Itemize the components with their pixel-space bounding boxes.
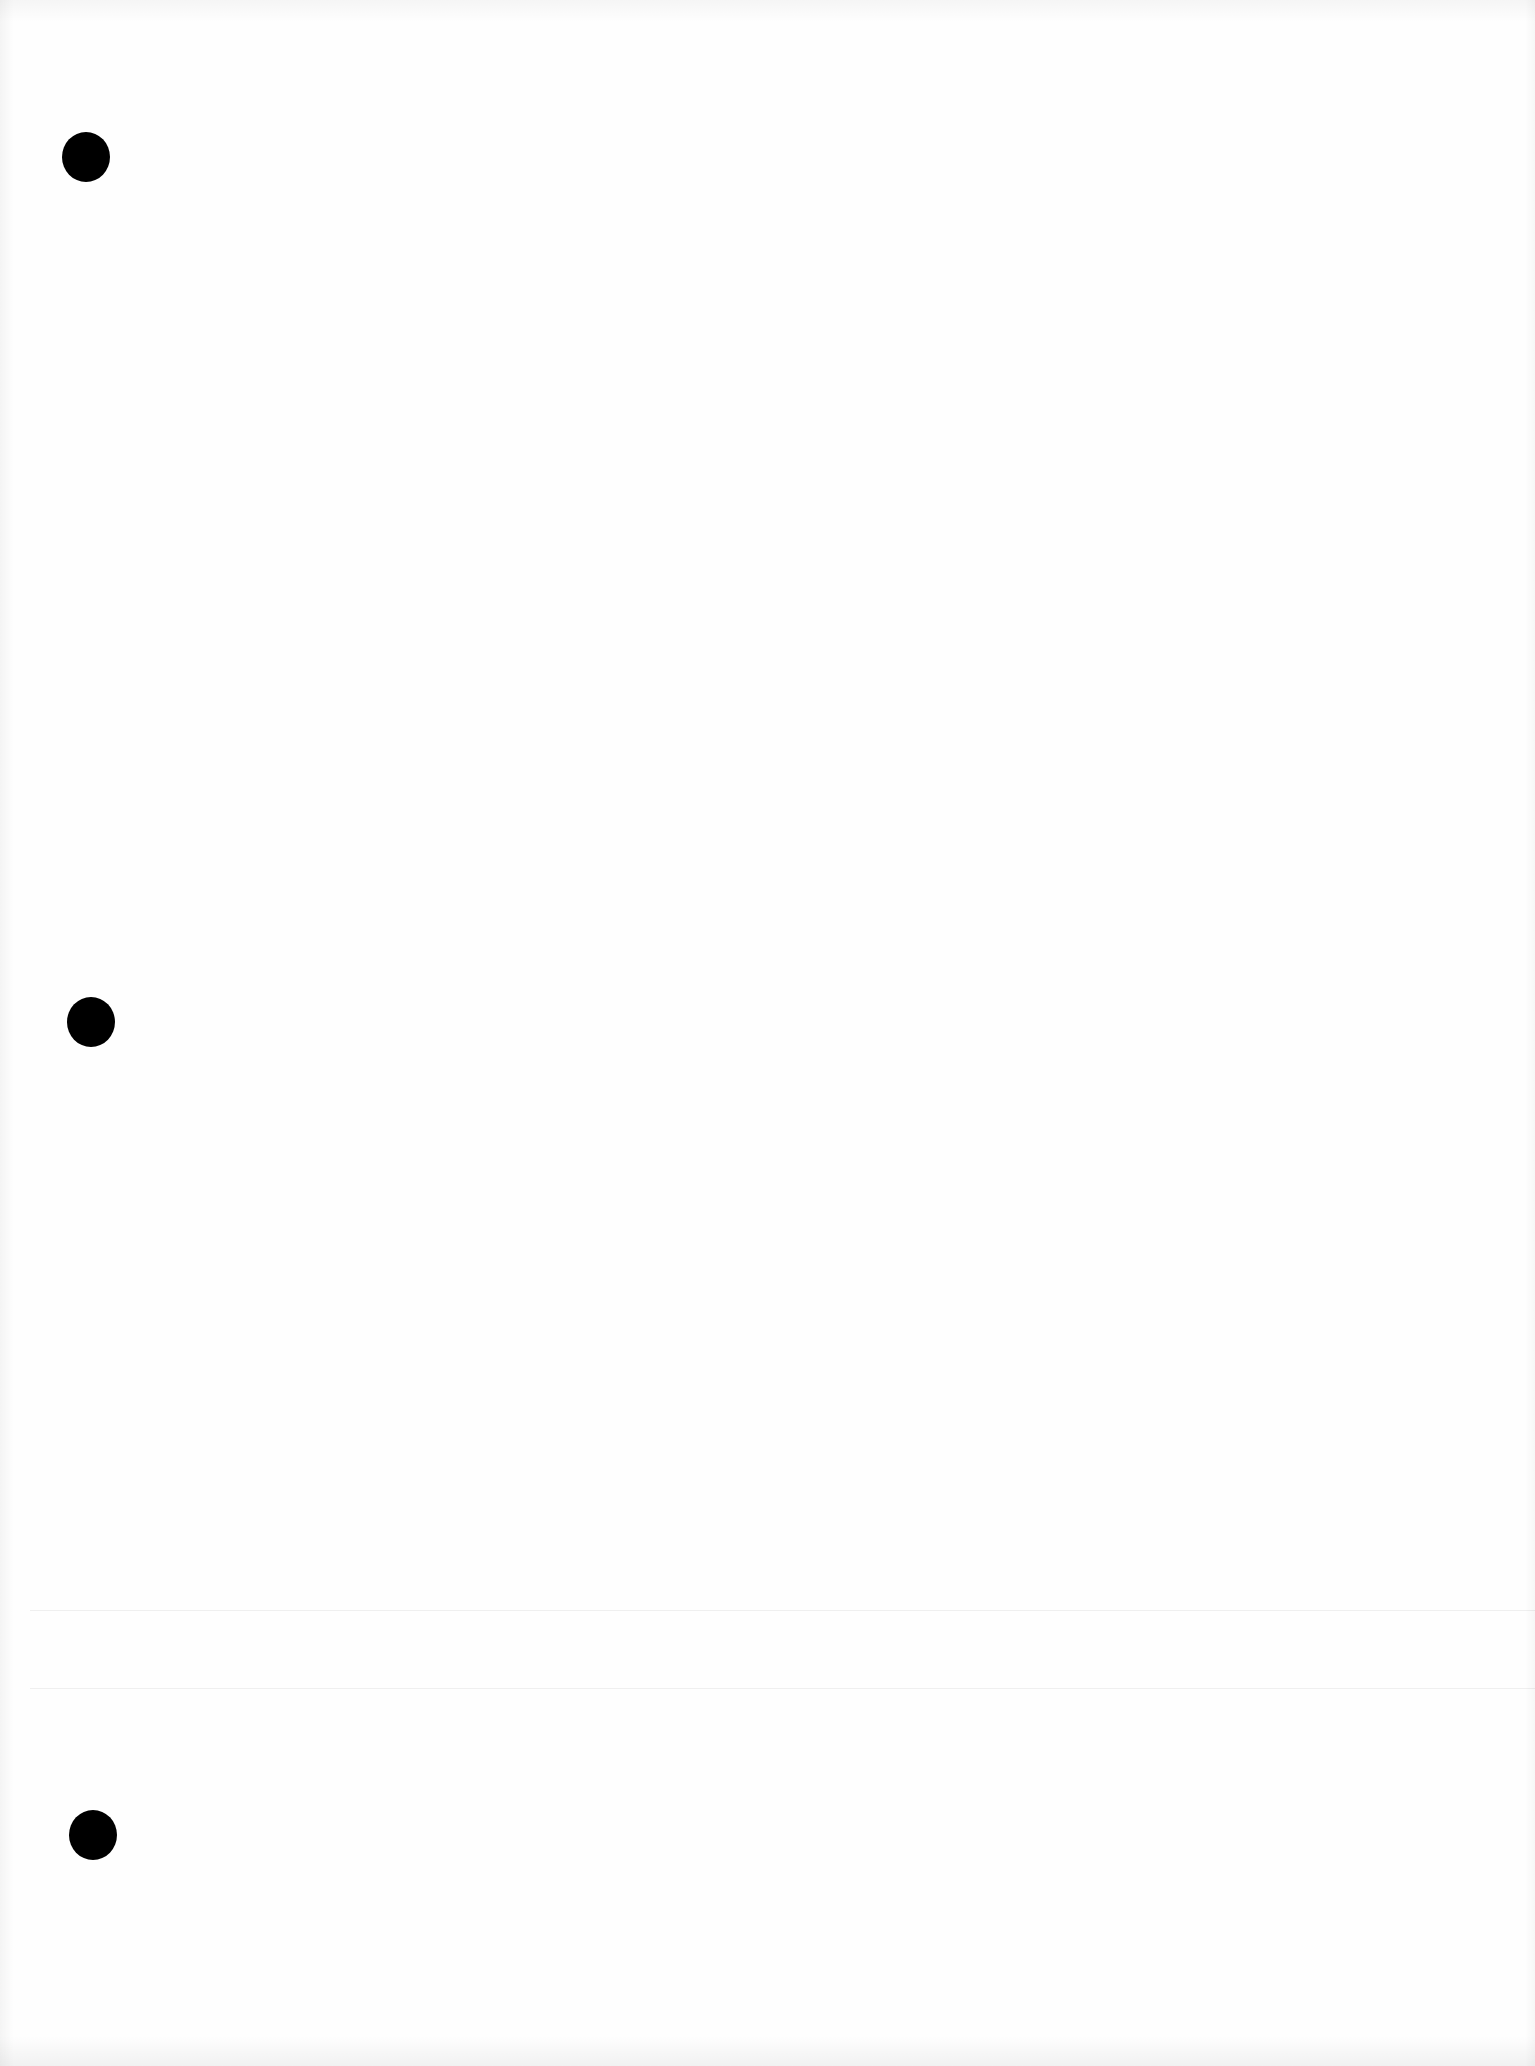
punch-hole-middle	[67, 997, 115, 1047]
blank-page	[0, 0, 1535, 2066]
punch-hole-bottom	[69, 1810, 117, 1860]
fold-line-lower	[30, 1688, 1535, 1689]
punch-hole-top	[62, 132, 110, 182]
fold-line-upper	[30, 1610, 1535, 1611]
